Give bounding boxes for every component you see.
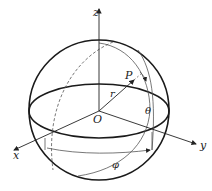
label-theta: θ — [145, 105, 151, 116]
label-r: r — [110, 88, 116, 99]
label-o: O — [93, 113, 102, 126]
label-z: z — [92, 6, 99, 19]
reference-meridian — [138, 50, 153, 150]
label-x: x — [13, 149, 20, 162]
x-axis — [14, 111, 99, 150]
label-y: y — [199, 139, 207, 152]
spherical-coordinates-diagram: z P r O θ x y φ — [0, 0, 212, 191]
label-p: P — [124, 69, 133, 82]
radius-extension-dashed — [134, 73, 142, 80]
label-phi: φ — [112, 159, 119, 170]
meridian-through-p — [78, 43, 150, 176]
